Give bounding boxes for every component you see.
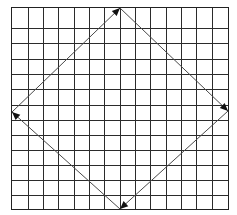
grid-diagram: [0, 0, 237, 215]
diamond-edge-right-bottom: [120, 111, 228, 209]
grid: [11, 7, 229, 210]
